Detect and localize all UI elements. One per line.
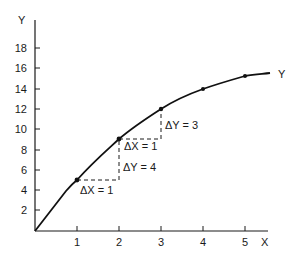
y-axis-title: Y	[18, 14, 26, 26]
data-point	[201, 87, 205, 91]
x-axis-title: X	[261, 236, 269, 248]
delta-x-label-1: ΔX = 1	[80, 184, 113, 196]
y-tick-label: 4	[21, 184, 27, 196]
x-tick-label: 4	[200, 236, 206, 248]
x-tick-label: 5	[242, 236, 248, 248]
x-tick-label: 3	[158, 236, 164, 248]
x-tick-labels: 1 2 3 4 5	[74, 236, 248, 248]
data-point	[75, 178, 80, 183]
y-tick-label: 12	[15, 103, 27, 115]
data-point	[159, 107, 163, 111]
data-point	[117, 137, 122, 142]
delta-x-label-2: ΔX = 1	[124, 140, 157, 152]
delta-y-label-2: ΔY = 3	[165, 119, 198, 131]
y-tick-labels: 2 4 6 8 10 12 14 16 18	[15, 42, 27, 216]
y-ticks	[35, 48, 40, 210]
y-tick-label: 10	[15, 123, 27, 135]
x-tick-label: 1	[74, 236, 80, 248]
y-tick-label: 16	[15, 62, 27, 74]
y-tick-label: 6	[21, 164, 27, 176]
x-ticks	[77, 226, 245, 231]
curve-label: Y	[278, 68, 286, 80]
y-tick-label: 14	[15, 83, 27, 95]
curve	[35, 73, 270, 231]
y-tick-label: 2	[21, 204, 27, 216]
data-point	[243, 74, 247, 78]
delta-y-label-1: ΔY = 4	[123, 161, 156, 173]
x-tick-label: 2	[116, 236, 122, 248]
y-tick-label: 18	[15, 42, 27, 54]
y-tick-label: 8	[21, 144, 27, 156]
chart: Y X 2 4 6 8 10 12 14 16 18 1 2 3 4 5	[0, 0, 305, 262]
